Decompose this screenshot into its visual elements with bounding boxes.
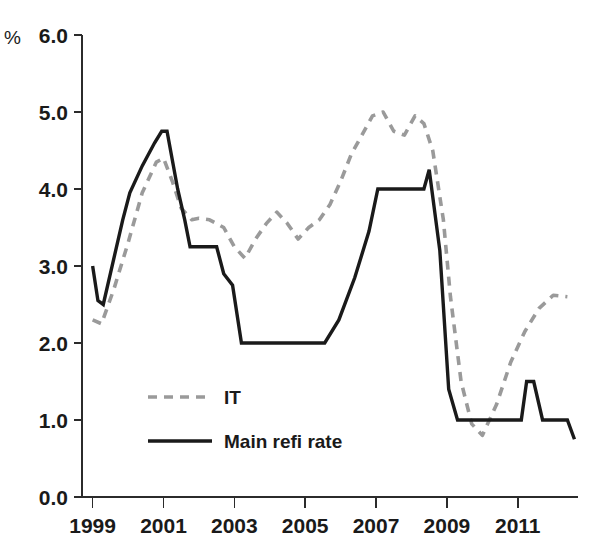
x-tick-label: 2009 — [424, 514, 471, 537]
y-axis-tick-labels: 6.05.04.03.02.01.00.0 — [39, 24, 68, 509]
x-tick-label: 2005 — [282, 514, 329, 537]
x-tick-label: 1999 — [69, 514, 116, 537]
y-tick-label: 5.0 — [39, 101, 68, 124]
series-line-it — [93, 112, 568, 435]
y-tick-label: 3.0 — [39, 255, 68, 278]
y-axis-unit-label: % — [4, 27, 21, 48]
y-axis-tick-marks — [74, 35, 82, 497]
y-tick-label: 0.0 — [39, 486, 68, 509]
legend-label-it: IT — [224, 387, 241, 408]
y-tick-label: 2.0 — [39, 332, 68, 355]
x-tick-label: 2011 — [495, 514, 541, 537]
x-tick-label: 2007 — [353, 514, 400, 537]
line-chart: 6.05.04.03.02.01.00.0 199920012003200520… — [0, 0, 590, 551]
x-tick-label: 2001 — [140, 514, 187, 537]
x-tick-label: 2003 — [211, 514, 258, 537]
y-tick-label: 1.0 — [39, 409, 68, 432]
y-tick-label: 6.0 — [39, 24, 68, 47]
legend-label-main-refi-rate: Main refi rate — [224, 431, 342, 452]
y-tick-label: 4.0 — [39, 178, 68, 201]
chart-legend: IT Main refi rate — [148, 387, 342, 452]
chart-container: 6.05.04.03.02.01.00.0 199920012003200520… — [0, 0, 590, 551]
x-axis-tick-marks — [93, 497, 518, 508]
x-axis-tick-labels: 1999200120032005200720092011 — [69, 514, 541, 537]
